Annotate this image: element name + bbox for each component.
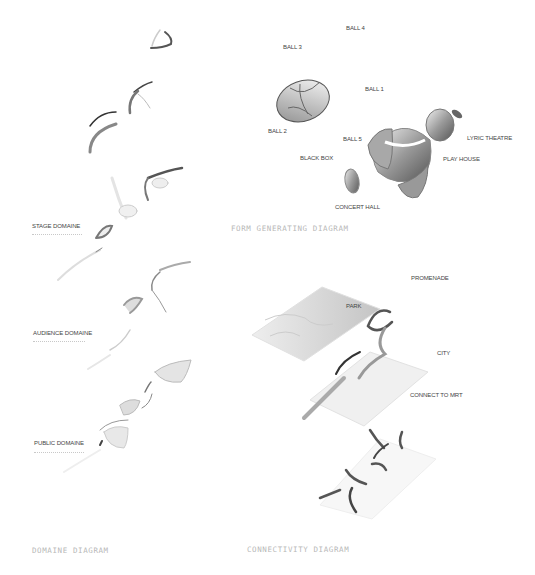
lyric-theatre-label: LYRIC THEATRE (467, 135, 512, 141)
ball2-label: BALL 2 (268, 128, 287, 134)
connect-to-mrt-label: CONNECT TO MRT (410, 392, 463, 398)
audience-domaine-ribbons (88, 262, 190, 369)
black-box-label: BLACK BOX (300, 155, 333, 161)
connectivity-diagram-title: CONNECTIVITY DIAGRAM (247, 545, 349, 554)
stage-domaine-ribbons (58, 30, 182, 280)
stage-domaine-underline (32, 234, 82, 235)
play-house-label: PLAY HOUSE (443, 156, 480, 162)
audience-domaine-label: AUDIENCE DOMAINE (33, 330, 92, 336)
public-domaine-underline (34, 452, 84, 453)
public-domaine-ribbons (64, 360, 191, 472)
ball4-label: BALL 4 (346, 25, 365, 31)
public-domaine-label: PUBLIC DOMAINE (34, 440, 84, 446)
form-generating-diagram-title: FORM GENERATING DIAGRAM (231, 224, 349, 233)
diagram-artwork (0, 0, 535, 575)
city-label: CITY (437, 350, 450, 356)
ball3-label: BALL 3 (283, 44, 302, 50)
ball1-label: BALL 1 (365, 86, 384, 92)
audience-domaine-underline (33, 341, 85, 342)
ball5-label: BALL 5 (343, 136, 362, 142)
connectivity-ground-planes (252, 287, 436, 519)
promenade-label: PROMENADE (411, 275, 449, 281)
park-label: PARK (346, 303, 362, 309)
domaine-diagram-title: DOMAINE DIAGRAM (32, 546, 109, 555)
concert-hall-label: CONCERT HALL (335, 204, 380, 210)
stage-domaine-label: STAGE DOMAINE (32, 223, 80, 229)
